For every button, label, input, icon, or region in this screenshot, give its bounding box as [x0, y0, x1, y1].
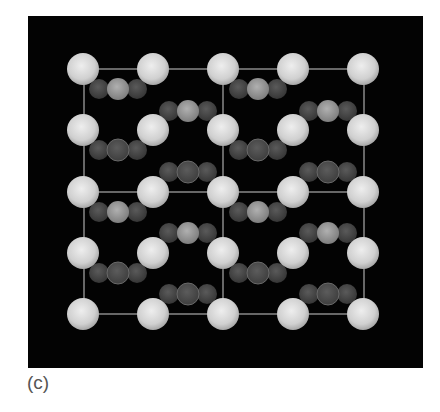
large-atom: [67, 298, 99, 330]
large-atom: [277, 298, 309, 330]
large-atom: [67, 114, 99, 146]
large-atom: [137, 53, 169, 85]
atom-trio: [159, 161, 217, 183]
center-atom-dark: [177, 283, 199, 305]
large-atom: [137, 176, 169, 208]
atom-trio: [229, 139, 287, 161]
center-atom-dark: [247, 139, 269, 161]
center-atom-light: [317, 100, 339, 122]
center-atom-dark: [247, 262, 269, 284]
large-atom: [67, 237, 99, 269]
atom-trio: [89, 201, 147, 223]
large-atom: [137, 298, 169, 330]
atom-trio: [299, 100, 357, 122]
large-atom: [207, 237, 239, 269]
large-atom: [277, 53, 309, 85]
atom-trio: [159, 100, 217, 122]
large-atom: [67, 176, 99, 208]
large-atom: [207, 114, 239, 146]
large-atom: [277, 176, 309, 208]
atom-trio: [229, 78, 287, 100]
center-atom-light: [247, 78, 269, 100]
center-atom-light: [247, 201, 269, 223]
atom-trio: [299, 222, 357, 244]
atom-trio: [89, 78, 147, 100]
atom-trio: [89, 262, 147, 284]
center-atom-light: [317, 222, 339, 244]
center-atom-dark: [107, 139, 129, 161]
crystal-structure-diagram: [0, 0, 440, 412]
center-atom-light: [107, 201, 129, 223]
large-atom: [207, 298, 239, 330]
large-atom: [137, 237, 169, 269]
atom-trio: [159, 222, 217, 244]
atom-trio: [299, 283, 357, 305]
center-atom-dark: [317, 161, 339, 183]
atom-trio: [299, 161, 357, 183]
large-atom: [347, 237, 379, 269]
large-atom: [207, 53, 239, 85]
large-atom: [347, 114, 379, 146]
large-atom: [67, 53, 99, 85]
large-atom: [347, 176, 379, 208]
large-atom: [277, 114, 309, 146]
center-atom-light: [177, 222, 199, 244]
center-atom-light: [177, 100, 199, 122]
large-atom: [347, 298, 379, 330]
center-atom-light: [107, 78, 129, 100]
atom-trio: [159, 283, 217, 305]
center-atom-dark: [317, 283, 339, 305]
large-atom: [207, 176, 239, 208]
large-atom: [277, 237, 309, 269]
large-atom: [137, 114, 169, 146]
atom-trio: [229, 201, 287, 223]
center-atom-dark: [177, 161, 199, 183]
large-atom: [347, 53, 379, 85]
atom-trio: [89, 139, 147, 161]
center-atom-dark: [107, 262, 129, 284]
atom-trio: [229, 262, 287, 284]
figure-label: (c): [27, 372, 49, 394]
